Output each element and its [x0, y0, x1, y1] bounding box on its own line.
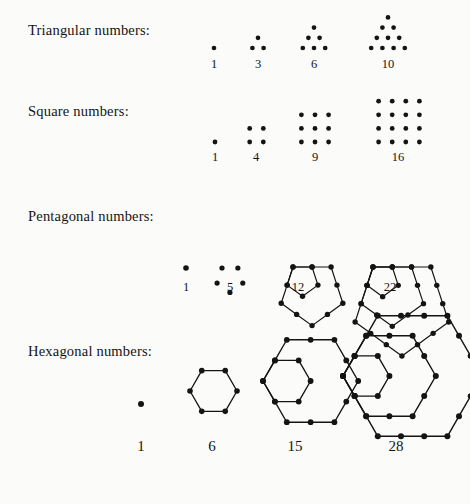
hexagonal-count-15: 15 [288, 438, 303, 455]
hexagonal-numbers-figure [0, 0, 470, 504]
hexagonal-count-28: 28 [389, 438, 404, 455]
hexagonal-count-1: 1 [137, 438, 145, 455]
hexagonal-count-6: 6 [208, 438, 216, 455]
figurate-numbers-page: Triangular numbers: Square numbers: Pent… [0, 0, 470, 504]
